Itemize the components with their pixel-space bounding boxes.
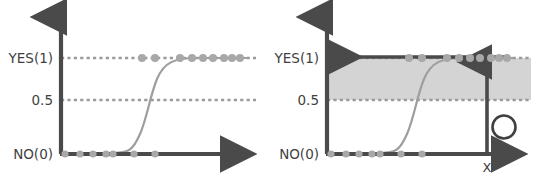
sigmoid-threshold-panel: YES(1) 0.5 NO(0) X: [270, 0, 539, 176]
xtick-label-x: X: [483, 160, 492, 175]
ytick-label-no: NO(0): [279, 146, 319, 162]
ytick-label-no: NO(0): [13, 146, 53, 162]
sigmoid-plot-svg: YES(1) 0.5 NO(0): [0, 0, 270, 176]
ytick-label-half: 0.5: [298, 92, 319, 108]
prediction-circle-marker: [493, 116, 516, 139]
ytick-label-yes: YES(1): [8, 50, 53, 66]
ytick-label-half: 0.5: [32, 92, 53, 108]
data-points-class-1: [138, 54, 244, 62]
sigmoid-plot-panel: YES(1) 0.5 NO(0): [0, 0, 270, 176]
ytick-label-yes: YES(1): [274, 50, 319, 66]
sigmoid-threshold-svg: YES(1) 0.5 NO(0) X: [270, 0, 539, 176]
shaded-yes-region: [327, 58, 531, 100]
figure-root: YES(1) 0.5 NO(0): [0, 0, 539, 176]
sigmoid-curve: [113, 58, 246, 153]
